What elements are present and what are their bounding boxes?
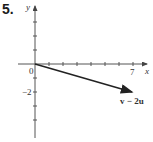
vector-v-minus-2u [35, 64, 132, 92]
x-axis-label: x [145, 66, 149, 76]
vector-label: v − 2u [120, 96, 144, 106]
x-tick-label-7: 7 [130, 67, 135, 77]
y-tick-label-neg2: −2 [22, 87, 32, 97]
y-axis-label: y [26, 2, 30, 12]
origin-label: 0 [29, 66, 34, 76]
